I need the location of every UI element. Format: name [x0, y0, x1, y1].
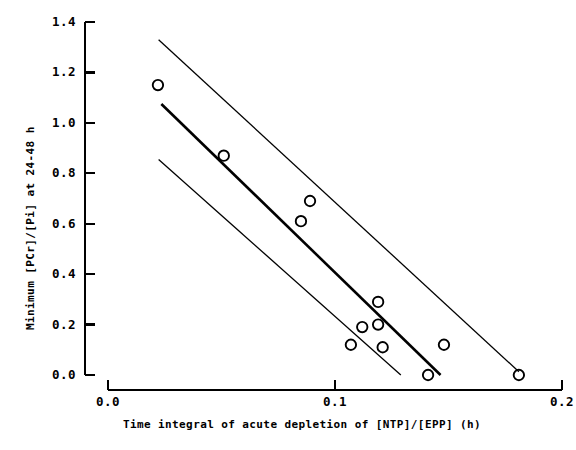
data-point	[153, 80, 163, 90]
x-tick-label: 0.2	[532, 394, 576, 409]
data-point	[377, 342, 387, 352]
x-axis-title: Time integral of acute depletion of [NTP…	[14, 418, 576, 431]
chart-figure: 0.00.20.40.60.81.01.21.4 0.00.10.2 Minim…	[0, 0, 576, 450]
upper-confidence-band	[159, 40, 519, 372]
data-point	[346, 340, 356, 350]
axis-spines	[85, 22, 562, 390]
x-tick-label: 0.1	[305, 394, 365, 409]
data-point	[423, 370, 433, 380]
x-tick-label: 0.0	[78, 394, 138, 409]
y-tick-label: 1.4	[30, 14, 76, 29]
regression-line	[161, 104, 440, 375]
y-tick-label: 1.2	[30, 64, 76, 79]
axis-ticks	[85, 22, 562, 390]
scatter-plot-canvas	[0, 0, 576, 450]
data-point	[439, 340, 449, 350]
data-point	[357, 322, 367, 332]
data-point-markers	[153, 80, 524, 380]
lower-confidence-band	[159, 159, 401, 375]
data-point	[219, 150, 229, 160]
regression-and-confidence-lines	[159, 40, 519, 375]
y-tick-label: 0.0	[30, 367, 76, 382]
data-point	[305, 196, 315, 206]
data-point	[373, 319, 383, 329]
y-axis-title: Minimum [PCr]/[Pi] at 24-48 h	[24, 126, 37, 330]
data-point	[373, 297, 383, 307]
data-point	[296, 216, 306, 226]
